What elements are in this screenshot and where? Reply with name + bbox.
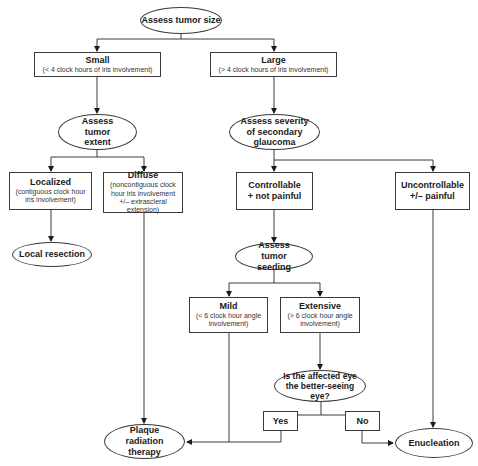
node-label: Plaque radiation therapy: [115, 425, 174, 457]
node-sublabel: (> 4 clock hours of iris involvement): [219, 66, 329, 74]
node-label: Yes: [273, 416, 289, 427]
node-label: Assess tumor extent: [71, 116, 124, 148]
diffuse-node: Diffuse (noncontiguous clock hour iris i…: [103, 172, 183, 213]
node-label: Assess tumor seeding: [248, 240, 300, 272]
node-label: Assess severity of secondary glaucoma: [238, 116, 311, 148]
extensive-node: Extensive (> 6 clock hour angle involvem…: [280, 297, 360, 333]
node-label: Assess tumor size: [141, 15, 220, 26]
assess-tumor-size-node: Assess tumor size: [140, 7, 222, 34]
node-sublabel: (< 4 clock hours of iris involvement): [43, 66, 153, 74]
assess-tumor-extent-node: Assess tumor extent: [58, 114, 137, 150]
mild-node: Mild (< 6 clock hour angle involvement): [189, 297, 268, 333]
plaque-radiation-therapy-node: Plaque radiation therapy: [104, 424, 185, 459]
node-sublabel: (< 6 clock hour angle involvement): [193, 312, 264, 329]
node-label: Large: [261, 55, 286, 66]
node-label: Uncontrollable +/– painful: [400, 180, 465, 202]
node-label: Mild: [220, 301, 238, 312]
assess-glaucoma-node: Assess severity of secondary glaucoma: [229, 114, 320, 150]
enucleation-node: Enucleation: [395, 428, 473, 458]
node-label: Small: [85, 55, 109, 66]
large-node: Large (> 4 clock hours of iris involveme…: [210, 52, 337, 77]
better-seeing-eye-question-node: Is the affected eye the better-seeing ey…: [274, 370, 366, 402]
uncontrollable-node: Uncontrollable +/– painful: [395, 172, 470, 210]
localized-node: Localized (contiguous clock hour iris in…: [9, 172, 92, 210]
node-label: Is the affected eye the better-seeing ey…: [283, 371, 357, 402]
controllable-node: Controllable + not painful: [236, 172, 313, 210]
node-sublabel: (contiguous clock hour iris involvement): [12, 188, 89, 205]
assess-tumor-seeding-node: Assess tumor seeding: [235, 243, 313, 270]
local-resection-node: Local resection: [12, 242, 92, 267]
node-label: Controllable + not painful: [247, 180, 302, 202]
node-sublabel: (> 6 clock hour angle involvement): [284, 312, 356, 329]
node-label: Diffuse: [128, 170, 159, 181]
node-label: Extensive: [299, 301, 341, 312]
node-sublabel: (noncontiguous clock hour iris involveme…: [107, 181, 179, 215]
node-label: Local resection: [19, 249, 85, 260]
node-label: No: [357, 416, 369, 427]
yes-node: Yes: [263, 411, 298, 431]
small-node: Small (< 4 clock hours of iris involveme…: [34, 52, 161, 77]
node-label: Localized: [30, 177, 71, 188]
node-label: Enucleation: [408, 438, 459, 449]
no-node: No: [345, 411, 380, 431]
